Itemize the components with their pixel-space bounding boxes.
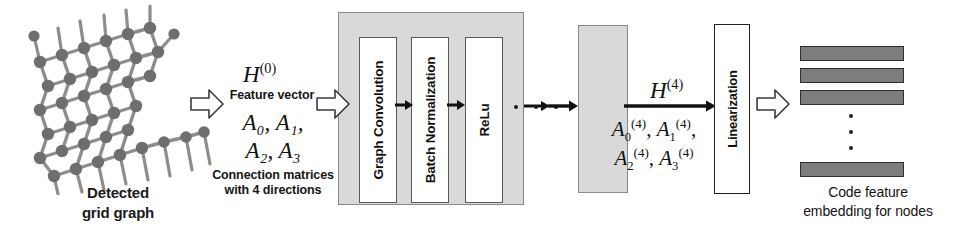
grid-graph-svg [18, 0, 218, 195]
h4-letter: H [650, 78, 667, 103]
output-matrix-a1: A1(4) [657, 117, 691, 141]
output-matrix-a3: A3(4) [659, 146, 693, 170]
arrow-gc-to-bn-icon [395, 99, 413, 111]
output-matrix-a2: A2(4) [614, 146, 648, 170]
h0-symbol: H(0) [243, 60, 276, 88]
h0-superscript: (0) [260, 60, 277, 76]
grid-graph-caption-line2: grid graph [18, 203, 218, 223]
embedding-caption: Code feature embedding for nodes [768, 183, 968, 221]
embedding-bar-4 [800, 162, 904, 177]
embedding-caption-line1: Code feature [768, 183, 968, 202]
connection-matrices-caption-line2: with 4 directions [208, 183, 338, 198]
layer-relu: ReLu [465, 37, 503, 203]
embedding-ellipsis-dot-3 [849, 146, 853, 150]
repeat-ellipsis-dot-1 [514, 105, 518, 109]
embedding-ellipsis-dot-1 [849, 114, 853, 118]
arrow-ellipsis-to-tail-icon [548, 100, 578, 112]
grid-graph-caption: Detected grid graph [18, 183, 218, 223]
h4-superscript: (4) [667, 76, 684, 92]
connection-matrices-line2: A₂, A₃ [228, 138, 318, 164]
h0-letter: H [243, 62, 260, 87]
layer-batch-normalization: Batch Normalization [411, 37, 449, 203]
block-arrow-right-icon [756, 88, 790, 120]
block-arrow-features-to-gcn [316, 88, 350, 124]
layer-batch-normalization-label: Batch Normalization [423, 57, 438, 184]
embedding-bar-3 [800, 90, 904, 105]
arrow-tail-to-linearization-icon [624, 100, 716, 112]
output-matrices-line2: A2(4), A3(4) [600, 145, 708, 174]
connection-matrices-line1: A₀, A₁, [228, 110, 318, 136]
linearization-label: Linearization [725, 70, 740, 148]
embedding-bar-1 [800, 46, 904, 61]
gcn-layer-container: Graph Convolution Batch Normalization Re… [338, 12, 524, 205]
connection-matrices-caption-line1: Connection matrices [208, 168, 338, 183]
grid-graph-caption-line1: Detected [18, 183, 218, 203]
embedding-bar-2 [800, 68, 904, 83]
layer-graph-convolution: Graph Convolution [359, 37, 397, 203]
repeat-ellipsis-dot-2 [534, 105, 538, 109]
block-arrow-linearization-to-output [756, 88, 790, 124]
output-matrices-line1: A0(4), A1(4), [600, 116, 708, 145]
grid-graph-illustration [18, 0, 218, 195]
arrow-bn-to-relu-icon [447, 99, 465, 111]
layer-relu-label: ReLu [477, 104, 492, 137]
layer-graph-convolution-label: Graph Convolution [371, 61, 386, 180]
embedding-caption-line2: embedding for nodes [768, 202, 968, 221]
linearization-block: Linearization [714, 24, 750, 194]
feature-vector-caption: Feature vector [214, 88, 330, 103]
embedding-ellipsis-dot-2 [849, 130, 853, 134]
output-matrix-a0: A0(4) [612, 117, 646, 141]
figure-canvas: Detected grid graph H(0) Feature vector … [0, 0, 972, 234]
block-arrow-right-icon [316, 88, 350, 120]
